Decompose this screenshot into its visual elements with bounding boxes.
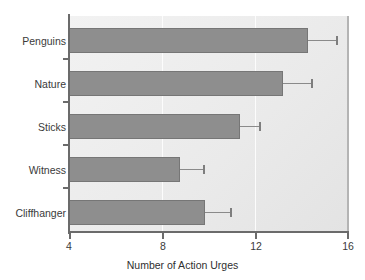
y-tick-0 bbox=[63, 58, 69, 60]
plot-area bbox=[69, 16, 348, 232]
bar-witness bbox=[69, 157, 180, 182]
x-tick-label-12: 12 bbox=[246, 240, 266, 252]
x-axis-title: Number of Action Urges bbox=[0, 259, 365, 271]
y-tick-label-witness: Witness bbox=[29, 164, 66, 176]
plot-right-edge bbox=[347, 16, 349, 232]
x-axis-line bbox=[69, 231, 349, 233]
error-line-cliffhanger bbox=[205, 212, 231, 213]
y-tick-1 bbox=[63, 101, 69, 103]
error-line-sticks bbox=[240, 126, 260, 127]
x-tick-label-4: 4 bbox=[59, 240, 79, 252]
error-line-nature bbox=[283, 83, 312, 84]
x-tick-12 bbox=[255, 233, 257, 239]
y-axis-line bbox=[68, 14, 70, 234]
bar-penguins bbox=[69, 28, 308, 53]
y-tick-2 bbox=[63, 144, 69, 146]
bar-chart: Penguins Nature Sticks Witness Cliffhang… bbox=[0, 0, 365, 280]
x-tick-label-8: 8 bbox=[153, 240, 173, 252]
y-tick-3 bbox=[63, 187, 69, 189]
error-cap-penguins bbox=[336, 36, 338, 45]
error-cap-sticks bbox=[259, 122, 261, 131]
error-cap-cliffhanger bbox=[230, 208, 232, 217]
error-cap-witness bbox=[203, 165, 205, 174]
x-tick-16 bbox=[347, 233, 349, 239]
x-tick-label-16: 16 bbox=[338, 240, 358, 252]
error-line-penguins bbox=[308, 40, 337, 41]
error-cap-nature bbox=[311, 79, 313, 88]
bar-cliffhanger bbox=[69, 200, 205, 225]
y-tick-label-penguins: Penguins bbox=[22, 35, 66, 47]
x-tick-4 bbox=[69, 233, 71, 239]
y-tick-label-cliffhanger: Cliffhanger bbox=[15, 207, 66, 219]
x-tick-8 bbox=[162, 233, 164, 239]
bar-sticks bbox=[69, 114, 240, 139]
y-tick-label-nature: Nature bbox=[34, 78, 66, 90]
bar-nature bbox=[69, 71, 283, 96]
y-tick-label-sticks: Sticks bbox=[38, 121, 66, 133]
error-line-witness bbox=[180, 169, 204, 170]
